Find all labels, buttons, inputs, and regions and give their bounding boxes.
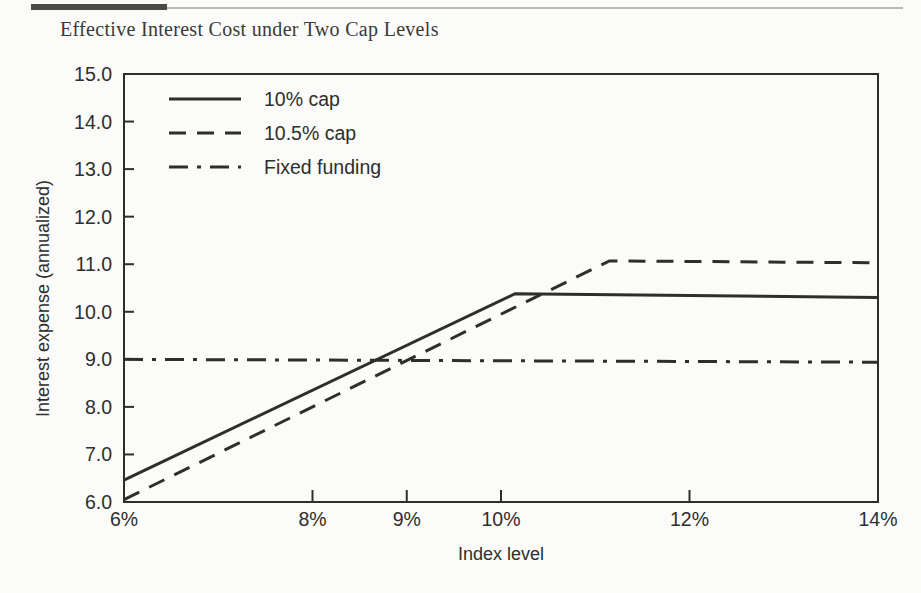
x-tick-marks: [313, 490, 690, 502]
legend-line-swatch-dashed: [168, 126, 242, 140]
y-tick-label: 6.0: [50, 491, 112, 514]
legend-item[interactable]: 10.5% cap: [168, 122, 381, 144]
y-tick-marks: [124, 122, 134, 455]
x-tick-label: 8%: [298, 508, 326, 531]
x-axis-title: Index level: [124, 544, 878, 565]
y-axis-title: Interest expense (annualized): [33, 89, 54, 509]
y-tick-label: 15.0: [50, 63, 112, 86]
plot-canvas: [0, 0, 921, 593]
legend-item-label: 10% cap: [264, 88, 340, 111]
x-tick-label: 6%: [110, 508, 138, 531]
series-lines: [124, 261, 878, 500]
legend-line-swatch-solid: [168, 92, 242, 106]
figure-page: Effective Interest Cost under Two Cap Le…: [0, 0, 921, 593]
series-line-solid: [124, 294, 878, 480]
chart-figure: 6.07.08.09.010.011.012.013.014.015.0 6%8…: [0, 0, 921, 593]
x-tick-label: 14%: [858, 508, 897, 531]
y-tick-label: 8.0: [50, 395, 112, 418]
y-tick-label: 14.0: [50, 110, 112, 133]
legend-item[interactable]: Fixed funding: [168, 156, 381, 178]
chart-legend: 10% cap10.5% capFixed funding: [168, 88, 381, 178]
y-tick-label: 13.0: [50, 158, 112, 181]
legend-item-label: Fixed funding: [264, 156, 381, 179]
y-tick-label: 10.0: [50, 300, 112, 323]
x-tick-label: 12%: [670, 508, 709, 531]
x-tick-label: 10%: [481, 508, 520, 531]
y-tick-label: 9.0: [50, 348, 112, 371]
legend-item-label: 10.5% cap: [264, 122, 356, 145]
series-line-dashdot: [124, 359, 878, 362]
legend-item[interactable]: 10% cap: [168, 88, 381, 110]
y-tick-label: 12.0: [50, 205, 112, 228]
x-tick-label: 9%: [393, 508, 421, 531]
legend-line-swatch-dashdot: [168, 160, 242, 174]
y-tick-label: 11.0: [50, 253, 112, 276]
y-tick-label: 7.0: [50, 443, 112, 466]
